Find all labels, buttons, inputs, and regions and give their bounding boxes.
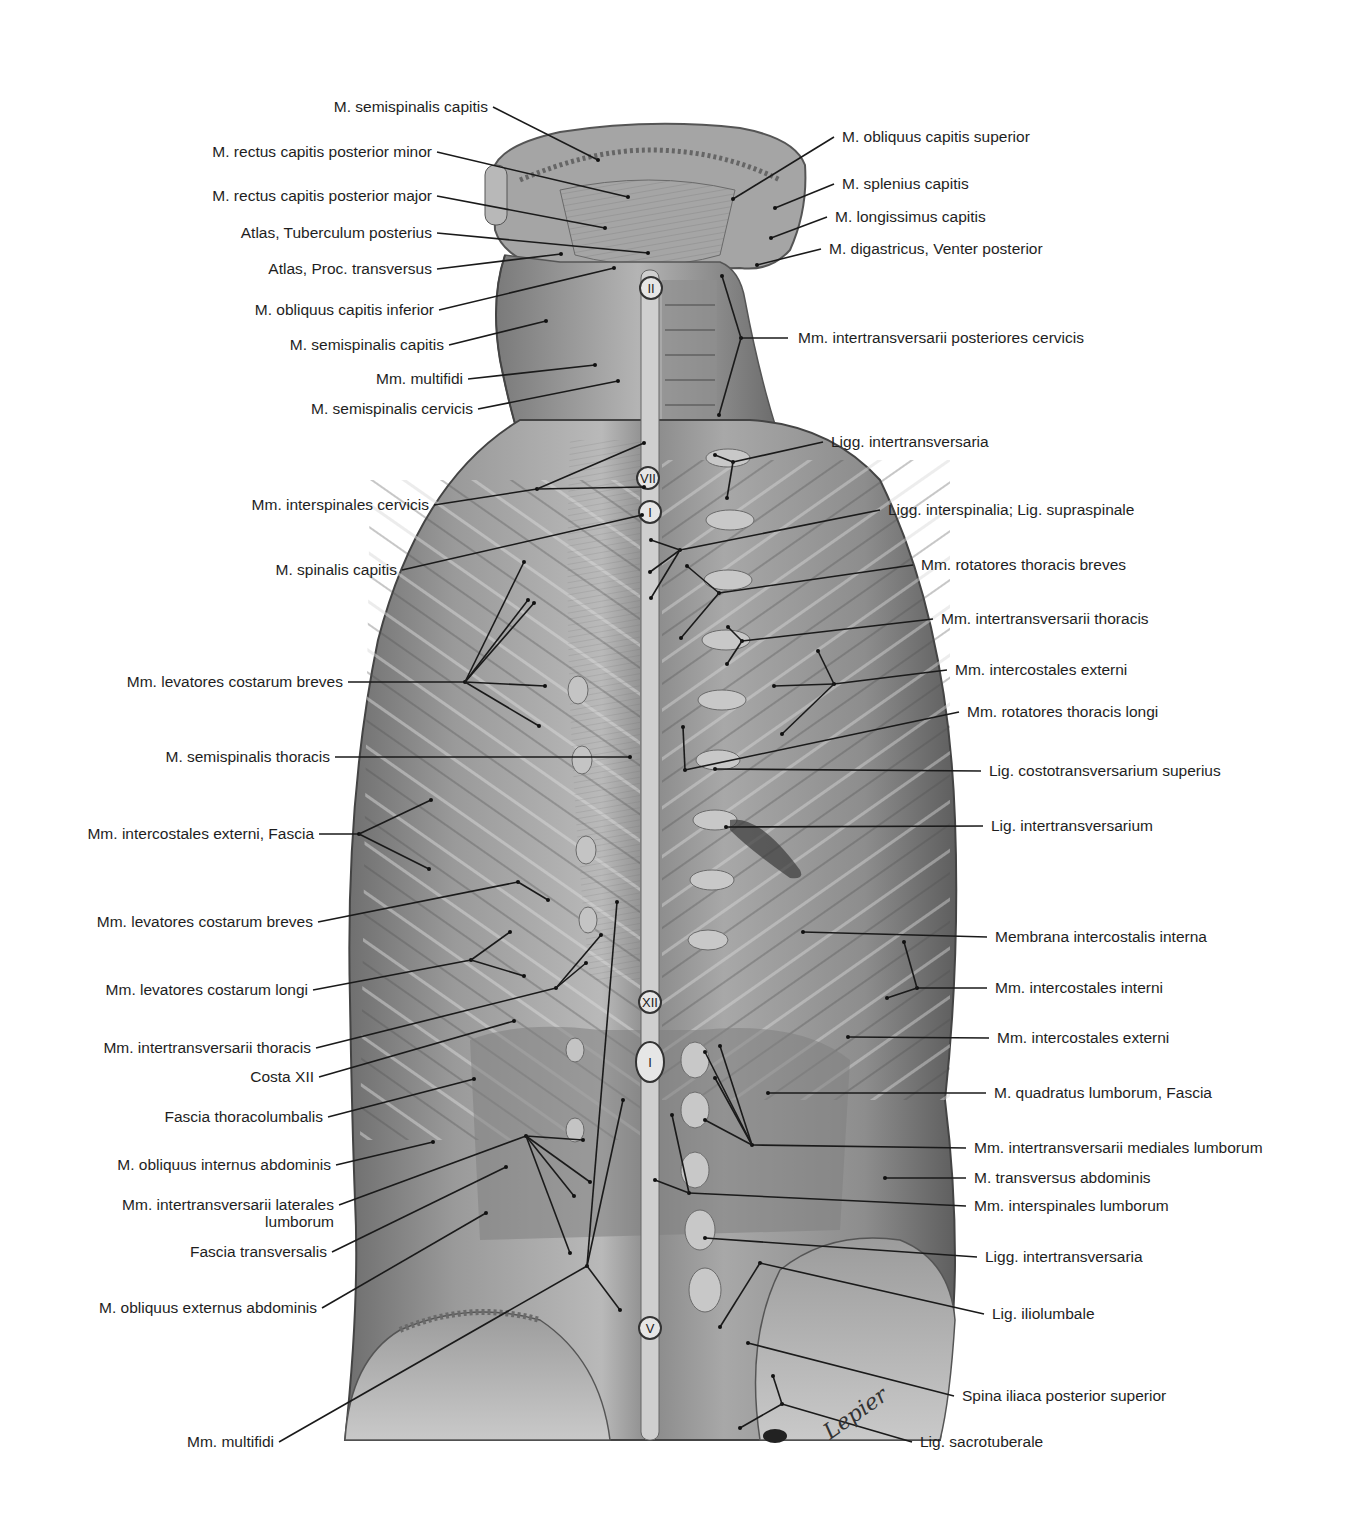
leader-dot <box>755 263 759 267</box>
label-atlas-tuberculum-posterius: Atlas, Tuberculum posterius <box>241 224 432 241</box>
label-m-semispinalis-capitis: M. semispinalis capitis <box>290 336 444 353</box>
label-lig-iliolumbale: Lig. iliolumbale <box>992 1305 1095 1322</box>
label-mm-multifidi: Mm. multifidi <box>376 370 463 387</box>
label-mm-levatores-costarum-breves: Mm. levatores costarum breves <box>97 913 313 930</box>
leader-dot <box>648 570 652 574</box>
leader-dot <box>626 195 630 199</box>
label-m-semispinalis-thoracis: M. semispinalis thoracis <box>165 748 330 765</box>
leader-line <box>848 1037 989 1038</box>
leader-dot <box>772 684 776 688</box>
label-mm-intertransversarii-laterales: Mm. intertransversarii laterales lumboru… <box>122 1196 334 1230</box>
neck-region <box>496 255 780 440</box>
label-lig-costotransversarium-superius: Lig. costotransversarium superius <box>989 762 1221 779</box>
label-mm-intercostales-externi: Mm. intercostales externi <box>997 1029 1169 1046</box>
leader-dot <box>685 564 689 568</box>
vertebra-marker-t1: I <box>639 501 661 523</box>
leader-dot <box>532 601 536 605</box>
leader-dot <box>771 1374 775 1378</box>
leader-dot <box>484 1211 488 1215</box>
leader-dot <box>816 649 820 653</box>
leader-dot <box>593 363 597 367</box>
leader-dot <box>846 1035 850 1039</box>
leader-dot <box>596 158 600 162</box>
label-m-obliquus-externus-abdominis: M. obliquus externus abdominis <box>99 1299 317 1316</box>
vertebra-marker-c7: VII <box>637 467 659 489</box>
label-mm-intertransversarii-mediales-lumborum: Mm. intertransversarii mediales lumborum <box>974 1139 1263 1156</box>
leader-dot <box>713 767 717 771</box>
leader-dot <box>537 724 541 728</box>
label-ligg-interspinalia-lig-supraspinale: Ligg. interspinalia; Lig. supraspinale <box>888 501 1134 518</box>
leader-dot <box>472 1077 476 1081</box>
svg-text:XII: XII <box>642 995 658 1010</box>
label-m-semispinalis-capitis: M. semispinalis capitis <box>334 98 488 115</box>
leader-dot <box>718 1325 722 1329</box>
label-ligg-intertransversaria: Ligg. intertransversaria <box>985 1248 1143 1265</box>
label-m-semispinalis-cervicis: M. semispinalis cervicis <box>311 400 473 417</box>
leader-dot <box>883 1176 887 1180</box>
leader-dot <box>679 636 683 640</box>
label-m-splenius-capitis: M. splenius capitis <box>842 175 969 192</box>
leader-dot <box>769 236 773 240</box>
leader-dot <box>628 755 632 759</box>
label-m-spinalis-capitis: M. spinalis capitis <box>276 561 397 578</box>
vertebra-marker-c2: II <box>640 277 662 299</box>
label-fascia-transversalis: Fascia transversalis <box>190 1243 327 1260</box>
leader-dot <box>773 206 777 210</box>
leader-dot <box>616 379 620 383</box>
label-mm-interspinales-cervicis: Mm. interspinales cervicis <box>252 496 429 513</box>
leader-dot <box>522 974 526 978</box>
label-mm-intercostales-externi: Mm. intercostales externi <box>955 661 1127 678</box>
vertebra-marker-l1: I <box>636 1042 664 1082</box>
label-mm-intertransversarii-thoracis: Mm. intertransversarii thoracis <box>103 1039 311 1056</box>
label-m-rectus-capitis-posterior-minor: M. rectus capitis posterior minor <box>212 143 432 160</box>
leader-dot <box>726 625 730 629</box>
leader-dot <box>640 513 644 517</box>
leader-dot <box>766 1091 770 1095</box>
label-mm-intertransversarii-thoracis: Mm. intertransversarii thoracis <box>941 610 1149 627</box>
leader-dot <box>713 1076 717 1080</box>
leader-dot <box>703 1236 707 1240</box>
leader-dot <box>581 1138 585 1142</box>
label-mm-interspinales-lumborum: Mm. interspinales lumborum <box>974 1197 1169 1214</box>
leader-dot <box>559 252 563 256</box>
leader-dot <box>720 274 724 278</box>
label-m-obliquus-capitis-inferior: M. obliquus capitis inferior <box>255 301 434 318</box>
label-lig-intertransversarium: Lig. intertransversarium <box>991 817 1153 834</box>
leader-dot <box>703 1118 707 1122</box>
leader-dot <box>746 1341 750 1345</box>
leader-dot <box>603 226 607 230</box>
leader-dot <box>718 1044 722 1048</box>
leader-dot <box>670 1113 674 1117</box>
label-mm-rotatores-thoracis-longi: Mm. rotatores thoracis longi <box>967 703 1158 720</box>
label-mm-levatores-costarum-longi: Mm. levatores costarum longi <box>106 981 308 998</box>
leader-dot <box>801 930 805 934</box>
leader-dot <box>717 413 721 417</box>
label-atlas-proc-transversus: Atlas, Proc. transversus <box>268 260 432 277</box>
leader-dot <box>431 1140 435 1144</box>
leader-dot <box>703 1050 707 1054</box>
leader-dot <box>738 1426 742 1430</box>
label-m-obliquus-capitis-superior: M. obliquus capitis superior <box>842 128 1030 145</box>
label-m-transversus-abdominis: M. transversus abdominis <box>974 1169 1151 1186</box>
leader-dot <box>572 1194 576 1198</box>
svg-text:II: II <box>647 281 654 296</box>
leader-dot <box>621 1098 625 1102</box>
label-mm-intertransversarii-posteriores-cervicis: Mm. intertransversarii posteriores cervi… <box>798 329 1084 346</box>
leader-dot <box>508 930 512 934</box>
leader-dot <box>653 1178 657 1182</box>
label-costa-xii: Costa XII <box>250 1068 314 1085</box>
leader-dot <box>649 538 653 542</box>
leader-dot <box>599 933 603 937</box>
leader-dot <box>646 251 650 255</box>
label-mm-multifidi: Mm. multifidi <box>187 1433 274 1450</box>
leader-dot <box>543 684 547 688</box>
leader-dot <box>526 598 530 602</box>
leader-dot <box>731 197 735 201</box>
label-m-rectus-capitis-posterior-major: M. rectus capitis posterior major <box>212 187 432 204</box>
label-mm-rotatores-thoracis-breves: Mm. rotatores thoracis breves <box>921 556 1126 573</box>
leader-dot <box>681 725 685 729</box>
leader-dot <box>612 266 616 270</box>
svg-text:V: V <box>646 1321 655 1336</box>
label-mm-intercostales-externi-fascia: Mm. intercostales externi, Fascia <box>87 825 314 842</box>
svg-text:I: I <box>648 505 652 520</box>
